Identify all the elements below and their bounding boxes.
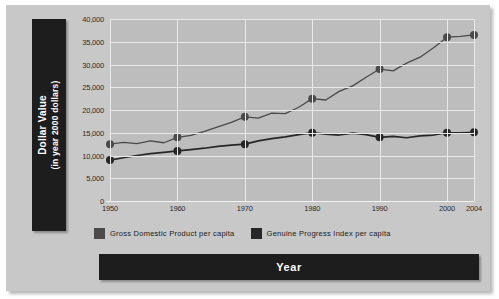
x-axis-tick-labels: 1950196019701980199020002004 (68, 204, 478, 220)
y-axis-title: Dollar Value (in year 2000 dollars) (37, 81, 61, 170)
legend-label: Gross Domestic Product per capita (110, 229, 235, 238)
y-axis-tick-label: 15,000 (82, 128, 104, 137)
y-axis-tick-label: 30,000 (82, 60, 104, 69)
gridline-horizontal (110, 110, 474, 111)
gridline-horizontal (110, 42, 474, 43)
x-axis-tick-label: 1970 (237, 204, 253, 213)
chart-screenshot: Dollar Value (in year 2000 dollars) 05,0… (0, 0, 499, 299)
legend-label: Genuine Progress Index per capita (267, 229, 391, 238)
legend-swatch-icon (94, 228, 105, 239)
x-axis-line (106, 201, 474, 202)
gridline-vertical (245, 19, 246, 201)
gridline-horizontal (110, 178, 474, 179)
y-axis-tick-label: 35,000 (82, 37, 104, 46)
chart-area: 05,00010,00015,00020,00025,00030,00035,0… (68, 19, 478, 231)
gridline-horizontal (110, 19, 474, 20)
gridline-horizontal (110, 65, 474, 66)
y-axis-tick-label: 40,000 (82, 15, 104, 24)
gridline-horizontal (110, 87, 474, 88)
series-line (110, 35, 474, 144)
legend-entry[interactable]: Genuine Progress Index per capita (251, 228, 391, 239)
gridline-vertical (312, 19, 313, 201)
gridline-vertical (474, 19, 475, 201)
gridline-vertical (447, 19, 448, 201)
y-axis-title-line2: (in year 2000 dollars) (49, 81, 61, 170)
y-axis-title-line1: Dollar Value (37, 95, 48, 155)
y-axis-tick-label: 5,000 (86, 174, 104, 183)
gridline-vertical (110, 19, 111, 201)
plot-area (110, 19, 474, 201)
gridline-horizontal (110, 133, 474, 134)
x-axis-tick-label: 1990 (372, 204, 388, 213)
x-axis-tick-label: 2000 (439, 204, 455, 213)
x-axis-title: Year (276, 261, 302, 273)
x-axis-tick-label: 1960 (169, 204, 185, 213)
x-axis-tick-label: 2004 (466, 204, 482, 213)
legend-entry[interactable]: Gross Domestic Product per capita (94, 228, 235, 239)
y-axis-title-banner: Dollar Value (in year 2000 dollars) (32, 19, 66, 231)
y-axis-tick-label: 20,000 (82, 106, 104, 115)
x-axis-tick-label: 1980 (304, 204, 320, 213)
gridline-vertical (380, 19, 381, 201)
x-axis-tick-label: 1950 (102, 204, 118, 213)
gridline-horizontal (110, 156, 474, 157)
chart-plate: Dollar Value (in year 2000 dollars) 05,0… (6, 5, 490, 291)
y-axis-tick-label: 10,000 (82, 151, 104, 160)
chart-legend: Gross Domestic Product per capitaGenuine… (94, 225, 391, 241)
y-axis-tick-label: 25,000 (82, 83, 104, 92)
y-axis-tick-labels: 05,00010,00015,00020,00025,00030,00035,0… (68, 19, 106, 231)
x-axis-title-banner: Year (99, 254, 479, 280)
gridline-vertical (177, 19, 178, 201)
legend-swatch-icon (251, 228, 262, 239)
